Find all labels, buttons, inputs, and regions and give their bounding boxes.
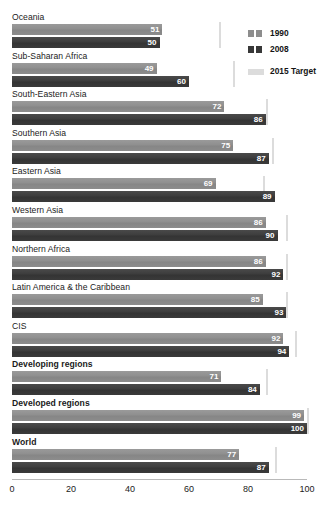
bar-value-label: 60 [177, 76, 189, 87]
bar-fill [12, 449, 239, 460]
target-2015-tick [272, 138, 274, 164]
bar-fill [12, 256, 266, 267]
bar-group-label: Eastern Asia [12, 166, 61, 176]
bar-value-label: 87 [257, 462, 269, 473]
legend-label: 2015 Target [270, 66, 316, 77]
bar-fill [12, 178, 216, 189]
bar-value-label: 89 [263, 191, 275, 202]
bar-value-label: 72 [212, 101, 224, 112]
bar-value-label: 86 [254, 114, 266, 125]
bar-2008: 90 [12, 230, 278, 241]
bar-1990: 86 [12, 256, 266, 267]
bar-value-label: 49 [145, 63, 157, 74]
bar-1990: 71 [12, 371, 221, 382]
x-axis-tick-label: 60 [184, 484, 194, 494]
bar-group: Northern Africa8692 [0, 244, 324, 280]
bar-group-label: World [12, 437, 36, 447]
bar-2008: 60 [12, 76, 189, 87]
bar-value-label: 77 [227, 449, 239, 460]
bar-1990: 85 [12, 294, 263, 305]
bar-group: South-Eastern Asia7286 [0, 89, 324, 125]
bar-fill [12, 410, 304, 421]
bar-2008: 93 [12, 307, 286, 318]
bar-fill [12, 37, 160, 48]
bar-group-label: Developed regions [12, 398, 90, 408]
bar-fill [12, 230, 278, 241]
bar-group: Southern Asia7587 [0, 128, 324, 164]
legend-swatch-square [248, 30, 254, 37]
bar-group-label: Sub-Saharan Africa [12, 51, 87, 61]
legend-swatch-square [256, 46, 262, 53]
bar-2008: 50 [12, 37, 160, 48]
chart-root: 1990 and 2008 (Percentage) Oceania5150Su… [0, 0, 324, 509]
target-2015-tick [233, 61, 235, 87]
x-axis-line [12, 479, 307, 480]
bar-fill [12, 217, 266, 228]
bar-group-label: South-Eastern Asia [12, 89, 86, 99]
target-2015-tick [266, 99, 268, 125]
x-axis-tick-label: 100 [299, 484, 314, 494]
bar-value-label: 84 [248, 384, 260, 395]
bar-fill [12, 294, 263, 305]
bar-value-label: 100 [291, 423, 307, 434]
target-2015-tick [219, 22, 221, 48]
bar-2008: 94 [12, 346, 289, 357]
bar-fill [12, 346, 289, 357]
bar-group: Developed regions99100 [0, 398, 324, 434]
bar-value-label: 90 [266, 230, 278, 241]
bar-1990: 99 [12, 410, 304, 421]
target-2015-tick [295, 331, 297, 357]
bar-2008: 89 [12, 191, 275, 202]
bar-value-label: 99 [292, 410, 304, 421]
bar-1990: 86 [12, 217, 266, 228]
target-2015-tick [275, 447, 277, 473]
bar-value-label: 86 [254, 256, 266, 267]
bar-fill [12, 153, 269, 164]
bar-group: Developing regions7184 [0, 359, 324, 395]
bar-fill [12, 63, 157, 74]
bar-fill [12, 76, 189, 87]
bar-value-label: 92 [271, 269, 283, 280]
bar-fill [12, 269, 283, 280]
bar-2008: 87 [12, 462, 269, 473]
target-2015-tick [307, 408, 309, 434]
bar-group-label: Latin America & the Caribbean [12, 282, 130, 292]
bar-group-label: Northern Africa [12, 244, 70, 254]
bar-group-label: Southern Asia [12, 128, 66, 138]
bar-fill [12, 423, 307, 434]
legend-swatch-square [248, 46, 254, 53]
bar-fill [12, 24, 162, 35]
legend-swatch-square [256, 30, 262, 37]
legend-swatch-block [248, 69, 264, 75]
bar-group: World7787 [0, 437, 324, 473]
bar-value-label: 75 [221, 140, 233, 151]
legend-swatch [248, 68, 266, 75]
legend-swatch [248, 30, 266, 37]
bar-1990: 49 [12, 63, 157, 74]
legend-label: 2008 [270, 44, 289, 55]
bar-value-label: 51 [151, 24, 163, 35]
bar-value-label: 94 [277, 346, 289, 357]
target-2015-tick [286, 254, 288, 280]
bar-value-label: 86 [254, 217, 266, 228]
bar-fill [12, 371, 221, 382]
target-2015-tick [286, 215, 288, 241]
bar-value-label: 69 [204, 178, 216, 189]
x-axis-tick-label: 80 [243, 484, 253, 494]
bar-fill [12, 140, 233, 151]
bar-group: Western Asia8690 [0, 205, 324, 241]
bar-value-label: 50 [148, 37, 160, 48]
bar-fill [12, 114, 266, 125]
bar-2008: 86 [12, 114, 266, 125]
x-axis-tick-label: 40 [125, 484, 135, 494]
bar-group: Eastern Asia6989 [0, 166, 324, 202]
bar-fill [12, 191, 275, 202]
bar-1990: 77 [12, 449, 239, 460]
bar-fill [12, 462, 269, 473]
bar-value-label: 93 [274, 307, 286, 318]
bar-fill [12, 101, 224, 112]
x-axis-tick-label: 0 [9, 484, 14, 494]
target-2015-tick [286, 292, 288, 318]
bar-group-label: Oceania [12, 12, 44, 22]
bar-group: CIS9294 [0, 321, 324, 357]
